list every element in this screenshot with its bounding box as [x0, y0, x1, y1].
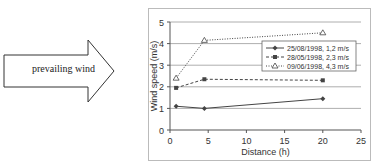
x-tick-label: 15	[280, 136, 290, 146]
x-tick-label: 0	[167, 136, 172, 146]
y-tick-label: 1	[159, 104, 164, 114]
square-marker	[273, 55, 277, 59]
wind-speed-chart: 0123450510152025Distance (h)Wind speed (…	[0, 0, 375, 163]
legend-entry: 25/08/1998, 1,2 m/s	[287, 45, 349, 52]
y-tick-label: 2	[159, 82, 164, 92]
x-tick-label: 25	[356, 136, 366, 146]
x-axis-label: Distance (h)	[241, 147, 290, 157]
x-tick-label: 5	[206, 136, 211, 146]
chart-frame	[149, 9, 371, 161]
square-marker	[202, 77, 206, 81]
square-marker	[321, 78, 325, 82]
square-marker	[174, 86, 178, 90]
y-tick-label: 5	[159, 18, 164, 28]
y-tick-label: 4	[159, 39, 164, 49]
legend-entry: 09/06/1998, 4,3 m/s	[287, 63, 349, 70]
x-tick-label: 10	[241, 136, 251, 146]
y-tick-label: 0	[159, 126, 164, 136]
legend-entry: 28/05/1998, 2,3 m/s	[287, 54, 349, 61]
y-axis-label: Wind speed (m/s)	[149, 41, 159, 112]
x-tick-label: 20	[318, 136, 328, 146]
y-tick-label: 3	[159, 61, 164, 71]
